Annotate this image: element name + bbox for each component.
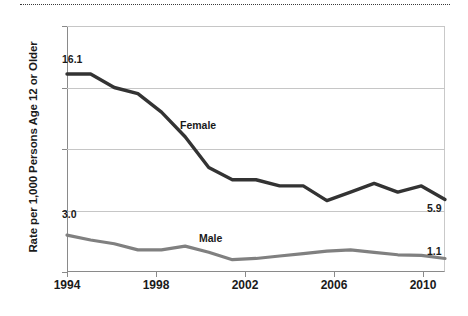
female-start-label: 16.1 bbox=[62, 53, 82, 65]
x-tick-mark-2010 bbox=[423, 272, 424, 277]
top-dotted-divider bbox=[20, 4, 450, 5]
x-tick-label-2010: 2010 bbox=[388, 278, 458, 292]
female-end-label: 5.9 bbox=[427, 202, 442, 214]
chart-figure: Rate per 1,000 Persons Age 12 or Older 2… bbox=[0, 0, 468, 316]
y-axis-title: Rate per 1,000 Persons Age 12 or Older bbox=[27, 22, 39, 272]
x-tick-mark-2002 bbox=[245, 272, 246, 277]
x-tick-label-2006: 2006 bbox=[299, 278, 369, 292]
x-tick-label-1994: 1994 bbox=[32, 278, 102, 292]
plot-area: Female Male 16.1 5.9 3.0 1.1 bbox=[67, 26, 445, 272]
male-series-label: Male bbox=[199, 232, 222, 244]
male-line bbox=[67, 235, 445, 260]
male-end-label: 1.1 bbox=[427, 245, 442, 257]
series-lines bbox=[67, 26, 445, 272]
female-line bbox=[67, 74, 445, 201]
male-start-label: 3.0 bbox=[62, 208, 77, 220]
x-tick-mark-2006 bbox=[334, 272, 335, 277]
female-series-label: Female bbox=[180, 119, 216, 131]
x-tick-label-1998: 1998 bbox=[121, 278, 191, 292]
x-tick-mark-1994 bbox=[67, 272, 68, 277]
x-tick-label-2002: 2002 bbox=[210, 278, 280, 292]
x-tick-mark-1998 bbox=[156, 272, 157, 277]
